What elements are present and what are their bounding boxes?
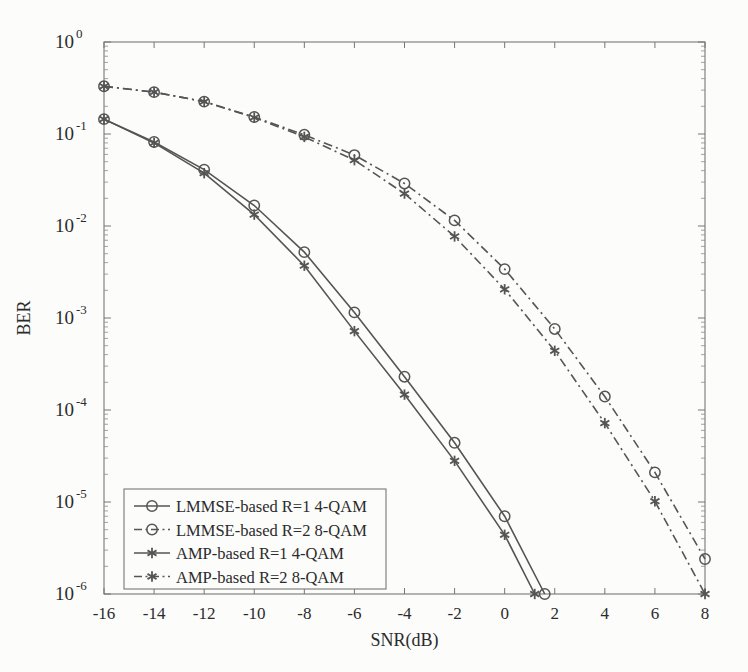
x-tick-label: -8 [297,604,311,623]
x-tick-label: 0 [500,604,509,623]
y-tick-label: 10-5 [55,486,87,512]
y-tick-mantissa: 10 [55,31,74,52]
x-tick-label: -12 [193,604,216,623]
legend-label: LMMSE-based R=1 4-QAM [176,497,367,516]
y-tick-label: 10-2 [55,210,87,236]
legend-label: AMP-based R=1 4-QAM [176,544,344,563]
y-tick-exponent: -2 [76,210,87,225]
x-tick-label: -10 [243,604,266,623]
x-axis-label: SNR(dB) [370,630,438,651]
chart-figure: -16-14-12-10-8-6-4-20246810010-110-210-3… [0,0,748,672]
y-tick-mantissa: 10 [55,123,74,144]
y-tick-label: 10-3 [55,302,87,328]
x-tick-label: -6 [347,604,361,623]
y-tick-exponent: -5 [76,486,87,501]
y-tick-mantissa: 10 [55,215,74,236]
legend-label: AMP-based R=2 8-QAM [176,568,344,587]
x-tick-label: 4 [601,604,610,623]
y-tick-mantissa: 10 [55,491,74,512]
y-tick-label: 10-1 [55,118,87,144]
y-tick-label: 100 [55,26,83,52]
y-axis-label: BER [14,300,34,335]
y-tick-label: 10-4 [55,394,87,420]
x-tick-label: -2 [447,604,461,623]
y-tick-exponent: -1 [76,118,87,133]
x-tick-label: -14 [143,604,166,623]
y-tick-mantissa: 10 [55,399,74,420]
x-tick-label: 6 [651,604,660,623]
x-tick-label: -4 [397,604,412,623]
y-tick-exponent: -6 [76,578,87,593]
legend: LMMSE-based R=1 4-QAMLMMSE-based R=2 8-Q… [124,489,386,589]
y-tick-mantissa: 10 [55,307,74,328]
x-tick-label: 2 [551,604,560,623]
y-tick-label: 10-6 [55,578,87,604]
y-tick-exponent: -4 [76,394,87,409]
x-tick-label: 8 [701,604,710,623]
y-tick-exponent: 0 [76,26,83,41]
ber-vs-snr-plot: -16-14-12-10-8-6-4-20246810010-110-210-3… [0,0,748,672]
x-tick-label: -16 [93,604,116,623]
legend-label: LMMSE-based R=2 8-QAM [176,521,367,540]
y-tick-mantissa: 10 [55,583,74,604]
y-tick-exponent: -3 [76,302,87,317]
